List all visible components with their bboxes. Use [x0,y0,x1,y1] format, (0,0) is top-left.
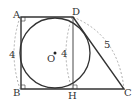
measure-dh: 4 [61,48,67,59]
label-d: D [72,6,80,17]
measure-dc: 5 [104,39,110,50]
label-h: H [68,90,77,101]
label-c: C [124,87,132,98]
trapezoid-abcd [21,17,124,89]
geometry-diagram: A B C D H O 4 4 5 [0,0,135,105]
measure-ab: 4 [9,49,15,60]
label-o: O [47,53,55,64]
label-a: A [12,9,21,20]
label-b: B [13,87,20,98]
